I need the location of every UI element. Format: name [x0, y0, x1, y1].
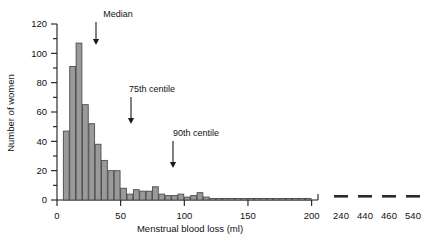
- y-axis-tick-label: 0: [42, 194, 47, 205]
- histogram-bar: [229, 199, 235, 200]
- histogram-bar: [89, 124, 95, 200]
- histogram-bar: [121, 188, 127, 200]
- histogram-bar: [267, 199, 273, 200]
- x-axis-title-label: Menstrual blood loss (ml): [137, 223, 243, 234]
- histogram-bar: [191, 196, 197, 200]
- y-axis-title-label: Number of women: [5, 74, 16, 152]
- centile-annotations: Median75th centile90th centile: [93, 9, 219, 168]
- histogram-bar: [223, 199, 229, 200]
- histogram-bar: [286, 199, 292, 200]
- annotation-arrow-head: [128, 118, 134, 124]
- histogram-bar: [76, 43, 82, 200]
- histogram-bar: [133, 190, 139, 200]
- y-axis-tick-label: 80: [36, 77, 47, 88]
- histogram-bar: [305, 199, 311, 200]
- x-axis-tick-label: 100: [176, 210, 192, 221]
- histogram-bar: [293, 199, 299, 200]
- histogram-bar: [197, 193, 203, 200]
- histogram-bar: [273, 199, 279, 200]
- x-axis-ticks: [57, 200, 312, 206]
- histogram-bar: [146, 191, 152, 200]
- histogram-bars: [63, 43, 311, 200]
- annotation-label: 75th centile: [129, 84, 175, 94]
- chart-canvas: Number of women 020406080100120 05010015…: [0, 0, 441, 239]
- x-axis-tick-label: 150: [240, 210, 256, 221]
- histogram-bar: [114, 171, 120, 200]
- y-axis-tick-labels: 020406080100120: [31, 18, 47, 205]
- histogram-bar: [82, 105, 88, 200]
- histogram-bar: [299, 199, 305, 200]
- y-axis-tick-label: 100: [31, 48, 47, 59]
- histogram-figure: Number of women 020406080100120 05010015…: [0, 0, 441, 239]
- histogram-bar: [242, 199, 248, 200]
- outlier-tick-label: 460: [381, 210, 397, 221]
- histogram-bar: [184, 197, 190, 200]
- y-axis-title: Number of women: [5, 74, 16, 152]
- histogram-bar: [140, 191, 146, 200]
- histogram-bar: [254, 199, 260, 200]
- y-axis-ticks: [51, 24, 57, 200]
- histogram-bar: [95, 144, 101, 200]
- histogram-bar: [178, 194, 184, 200]
- histogram-bar: [165, 196, 171, 200]
- y-axis-tick-label: 120: [31, 18, 47, 29]
- outlier-mark: [334, 195, 348, 198]
- histogram-bar: [216, 199, 222, 200]
- outlier-mark: [358, 195, 372, 198]
- annotation-label: 90th centile: [173, 128, 219, 138]
- histogram-bar: [127, 194, 133, 200]
- annotation-arrow-head: [170, 162, 176, 168]
- histogram-bar: [261, 199, 267, 200]
- x-axis-tick-labels: 050100150200: [54, 210, 319, 221]
- histogram-bar: [280, 199, 286, 200]
- histogram-bar: [203, 197, 209, 200]
- histogram-bar: [172, 196, 178, 200]
- histogram-bar: [63, 131, 69, 200]
- x-axis-tick-label: 50: [115, 210, 126, 221]
- histogram-bar: [235, 199, 241, 200]
- annotation-arrow-head: [93, 39, 99, 45]
- outlier-marks: [334, 195, 420, 198]
- x-axis-tick-label: 200: [304, 210, 320, 221]
- histogram-bar: [102, 160, 108, 200]
- histogram-bar: [248, 199, 254, 200]
- histogram-bar: [159, 194, 165, 200]
- outlier-tick-labels: 240440460540: [333, 210, 421, 221]
- histogram-bar: [108, 171, 114, 200]
- histogram-bar: [210, 199, 216, 200]
- y-axis-tick-label: 60: [36, 106, 47, 117]
- outlier-tick-label: 440: [357, 210, 373, 221]
- histogram-bar: [70, 67, 76, 200]
- outlier-tick-label: 240: [333, 210, 349, 221]
- outlier-mark: [406, 195, 420, 198]
- histogram-bar: [152, 187, 158, 200]
- x-axis-tick-label: 0: [54, 210, 59, 221]
- y-axis-tick-label: 20: [36, 165, 47, 176]
- y-axis-tick-label: 40: [36, 136, 47, 147]
- outlier-tick-label: 540: [405, 210, 421, 221]
- outlier-mark: [382, 195, 396, 198]
- annotation-label: Median: [103, 9, 133, 19]
